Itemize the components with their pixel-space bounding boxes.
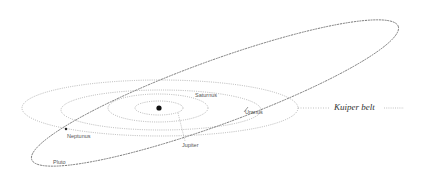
kuiper-belt-label: Kuiper belt	[334, 103, 375, 112]
pluto-orbit	[21, 0, 409, 178]
orbit-drawing	[0, 0, 428, 178]
solar-system-diagram: Jupiter Saturnus Uranus Neptunus Pluto K…	[0, 0, 428, 178]
uranus-orbit	[61, 90, 261, 130]
uranus-label: Uranus	[245, 110, 263, 116]
neptune-label: Neptunus	[67, 134, 91, 140]
jupiter-label: Jupiter	[182, 143, 199, 149]
pluto-label: Pluto	[53, 160, 66, 166]
sun-dot	[156, 105, 161, 110]
neptune-dot	[65, 128, 67, 130]
saturn-label: Saturnus	[195, 93, 217, 99]
jupiter-leader	[178, 113, 185, 141]
